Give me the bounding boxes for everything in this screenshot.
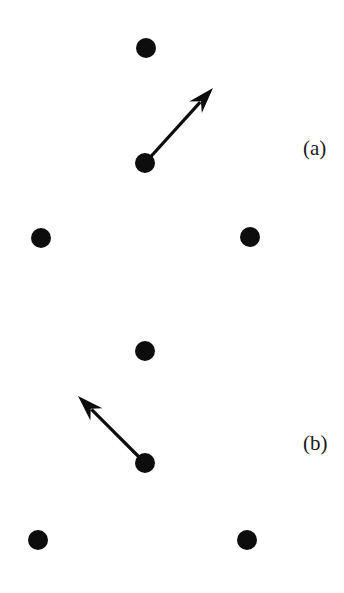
figure-canvas: (a) (b) [0, 0, 344, 593]
atom-a-lower-right [240, 227, 260, 247]
atom-a-top [136, 38, 156, 58]
atom-b-lower-right [237, 530, 257, 550]
displacement-arrow-a-shaft [145, 102, 200, 163]
panel-label-b: (b) [303, 433, 328, 454]
panel-b-group [28, 341, 257, 550]
lattice-diagram-svg [0, 0, 344, 593]
atom-b-top [135, 341, 155, 361]
panel-label-a: (a) [303, 138, 326, 159]
atom-b-lower-left [28, 530, 48, 550]
displacement-arrow-b-shaft [91, 409, 145, 463]
panel-a-group [31, 38, 260, 248]
atom-a-lower-left [31, 228, 51, 248]
